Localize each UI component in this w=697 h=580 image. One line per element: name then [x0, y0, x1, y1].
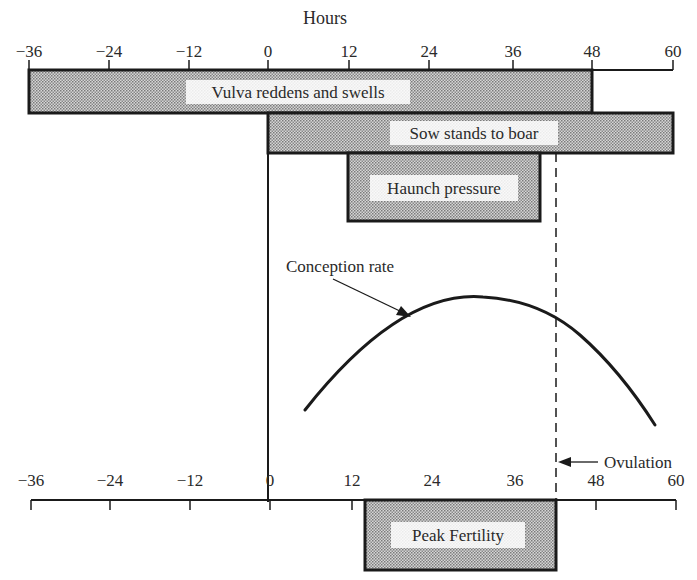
tick-label: −12 [176, 42, 203, 61]
tick-label: 24 [424, 471, 442, 490]
estrus-timeline-diagram: Hours −36−24−1201224364860 Vulva reddens… [0, 0, 697, 580]
bar-sow-stands: Sow stands to boar [268, 113, 673, 153]
tick-label: −24 [97, 471, 124, 490]
tick-label: 24 [421, 42, 439, 61]
tick-label: −36 [18, 471, 45, 490]
bar-peak-fertility: Peak Fertility [365, 500, 556, 570]
tick-label: 0 [266, 471, 275, 490]
tick-label: 12 [344, 471, 361, 490]
bar-label: Peak Fertility [412, 526, 505, 545]
bar-label: Sow stands to boar [410, 124, 539, 143]
tick-label: 36 [505, 42, 522, 61]
conception-rate-curve [305, 297, 655, 425]
tick-label: 60 [665, 42, 682, 61]
ovulation-label: Ovulation [604, 453, 672, 472]
bar-label: Haunch pressure [387, 179, 501, 198]
bar-label: Vulva reddens and swells [211, 83, 384, 102]
ovulation-arrow-icon [558, 457, 598, 467]
tick-label: 48 [588, 471, 605, 490]
tick-label: −12 [177, 471, 204, 490]
top-axis: −36−24−1201224364860 [16, 42, 682, 70]
conception-rate-arrow-icon [333, 279, 411, 317]
bottom-axis: −36−24−1201224364860 [18, 471, 685, 510]
axis-title-hours: Hours [303, 8, 347, 28]
tick-label: −24 [96, 42, 123, 61]
bar-haunch-pressure: Haunch pressure [348, 153, 540, 221]
tick-label: 0 [264, 42, 273, 61]
tick-label: 60 [668, 471, 685, 490]
bar-vulva-reddens: Vulva reddens and swells [29, 70, 592, 113]
conception-rate-label: Conception rate [286, 257, 394, 276]
tick-label: −36 [16, 42, 43, 61]
tick-label: 12 [341, 42, 358, 61]
tick-label: 36 [507, 471, 524, 490]
tick-label: 48 [584, 42, 601, 61]
